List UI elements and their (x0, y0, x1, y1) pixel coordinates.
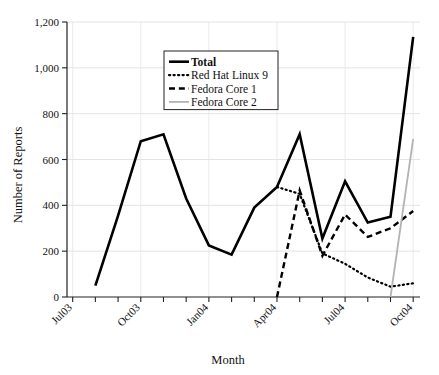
x-axis-title: Month (211, 353, 245, 367)
legend-label: Red Hat Linux 9 (191, 69, 268, 81)
y-tick-label: 1,200 (34, 16, 59, 28)
y-tick-label: 600 (43, 154, 60, 166)
legend-label: Total (191, 56, 216, 68)
y-tick-label: 1,000 (34, 62, 59, 74)
legend-label: Fedora Core 1 (191, 83, 257, 95)
legend-label: Fedora Core 2 (191, 96, 257, 108)
y-tick-label: 0 (54, 291, 60, 303)
y-tick-label: 800 (43, 108, 60, 120)
chart-legend: TotalRed Hat Linux 9Fedora Core 1Fedora … (164, 51, 278, 110)
y-tick-label: 200 (43, 245, 60, 257)
y-axis-title: Number of Reports (11, 127, 25, 224)
y-tick-label: 400 (43, 199, 60, 211)
line-chart: 02004006008001,0001,200 Jul03Oct03Jan04A… (0, 0, 439, 375)
chart-canvas: 02004006008001,0001,200 Jul03Oct03Jan04A… (0, 0, 439, 375)
